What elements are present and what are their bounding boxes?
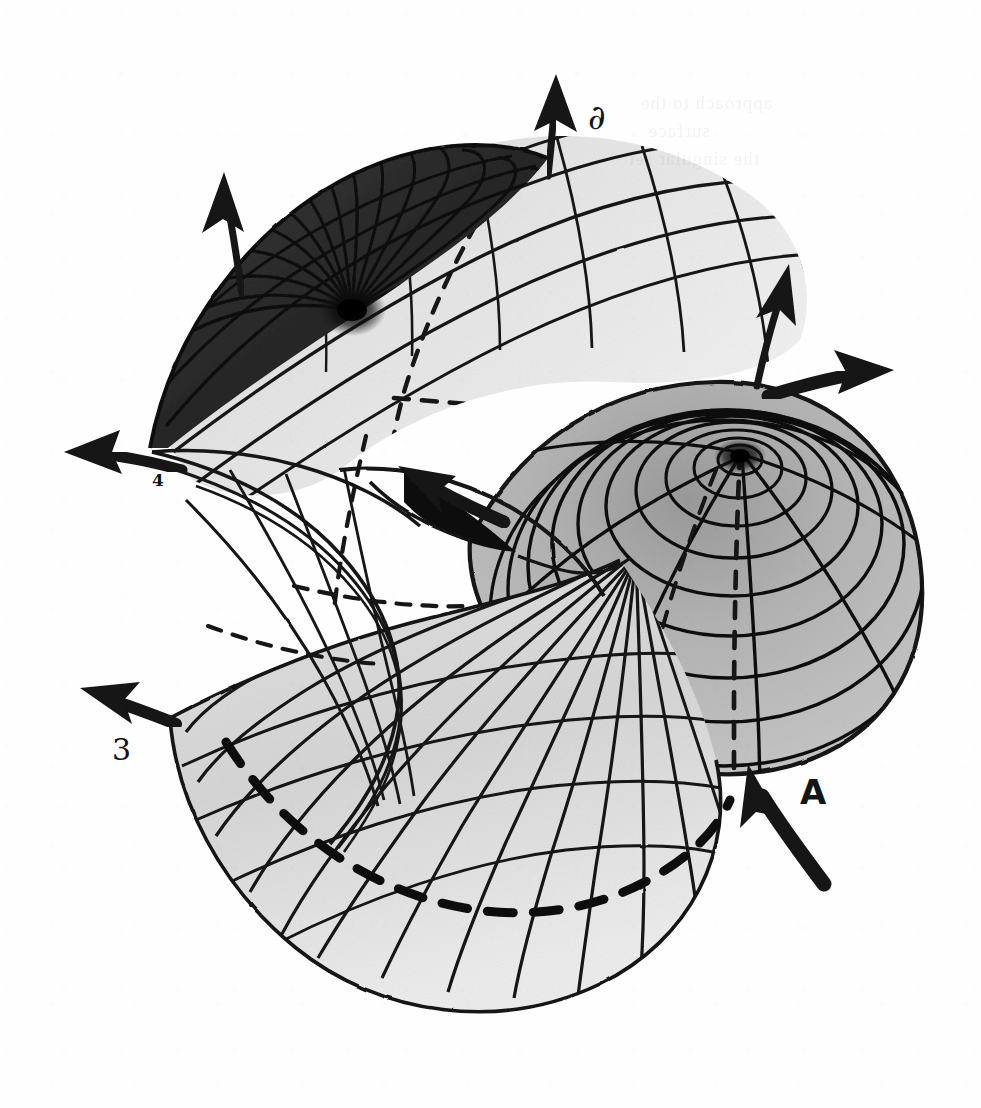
dark-lobe-focal-core [337,299,367,321]
arrow-top-left [202,172,244,294]
label-partial-derivative: ∂ [588,100,606,134]
dome-umbilic-core [730,449,750,463]
label-A: A [800,775,826,809]
figure-root: approach to the surface the singular set… [0,0,981,1108]
label-three: 3 [112,735,131,765]
arrow-lower-left [80,682,176,724]
label-four: 4 [152,472,164,489]
hand-drawn-surface-figure [0,0,981,1108]
region-lower-fan [170,556,740,1012]
arrow-right-curved [768,350,894,396]
